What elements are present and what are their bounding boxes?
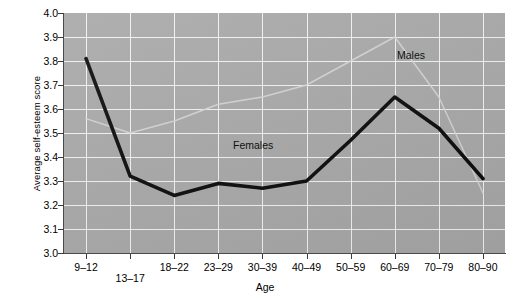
x-axis-title: Age [0,281,530,293]
x-tick-mark [307,254,308,259]
x-tick-mark [174,254,175,259]
y-tick-mark [58,253,64,254]
x-tick-mark [351,254,352,259]
x-tick-label: 30–39 [248,261,277,273]
x-tick-label: 60–69 [380,261,409,273]
plot-area [64,13,505,253]
y-axis-tick-labels: 4.03.93.83.73.63.53.43.33.23.13.0 [28,0,58,301]
x-tick-label: 23–29 [204,261,233,273]
x-tick-label: 50–59 [336,261,365,273]
y-tick-label: 3.7 [28,79,58,91]
y-tick-mark [58,37,64,38]
x-tick-mark [218,254,219,259]
y-tick-mark [58,85,64,86]
x-tick-mark [86,254,87,259]
y-tick-mark [58,133,64,134]
y-tick-label: 3.3 [28,175,58,187]
series-lines [64,13,505,253]
y-tick-mark [58,13,64,14]
x-tick-label: 80–90 [468,261,497,273]
y-tick-label: 3.5 [28,127,58,139]
y-tick-mark [58,205,64,206]
y-tick-label: 3.0 [28,247,58,259]
y-tick-mark [58,109,64,110]
x-tick-mark [395,254,396,259]
x-tick-label: 18–22 [160,261,189,273]
y-tick-mark [58,229,64,230]
y-tick-label: 3.1 [28,223,58,235]
y-tick-label: 4.0 [28,7,58,19]
y-tick-label: 3.9 [28,31,58,43]
x-tick-mark [483,254,484,259]
y-tick-label: 3.2 [28,199,58,211]
y-tick-label: 3.4 [28,151,58,163]
x-tick-label: 70–79 [424,261,453,273]
series-label-males: Males [397,49,425,61]
y-tick-mark [58,181,64,182]
y-tick-mark [58,61,64,62]
y-tick-label: 3.6 [28,103,58,115]
x-tick-mark [439,254,440,259]
series-label-females: Females [233,139,273,151]
x-tick-label: 40–49 [292,261,321,273]
series-line-females [86,59,483,196]
chart-figure: Average self-esteem score 4.03.93.83.73.… [0,0,530,301]
x-tick-label: 9–12 [74,261,97,273]
y-tick-label: 3.8 [28,55,58,67]
x-tick-mark [262,254,263,259]
y-tick-mark [58,157,64,158]
x-tick-mark [130,254,131,259]
